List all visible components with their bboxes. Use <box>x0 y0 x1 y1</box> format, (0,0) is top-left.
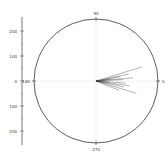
angle-label-90: 90 <box>93 11 99 16</box>
angle-label-270: 270 <box>92 147 100 152</box>
angle-label-180: 180 <box>22 79 30 84</box>
vector-line <box>96 81 136 93</box>
y-tick-label: 100 <box>9 54 17 59</box>
polar-chart: 2001000100200 90 270 0 180 <box>0 0 168 156</box>
y-tick-label: 0 <box>14 79 17 84</box>
y-tick-label: 100 <box>9 104 17 109</box>
y-tick-label: 200 <box>9 129 17 134</box>
y-tick-label: 200 <box>9 29 17 34</box>
data-vectors <box>96 67 142 93</box>
angle-label-0: 0 <box>162 79 165 84</box>
